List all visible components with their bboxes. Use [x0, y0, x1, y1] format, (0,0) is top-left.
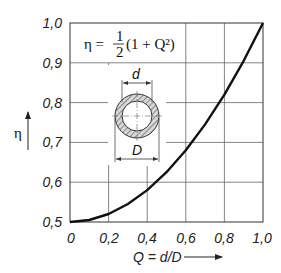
svg-text:0: 0 [67, 230, 75, 246]
y-tick-labels: 0,5 0,6 0,7 0,8 0,9 1,0 [43, 15, 64, 230]
svg-text:2: 2 [116, 44, 124, 60]
svg-text:0,2: 0,2 [99, 230, 119, 246]
hollow-shaft-diagram: d D [108, 65, 166, 165]
svg-text:0,9: 0,9 [43, 55, 63, 71]
y-axis-label: η [14, 125, 22, 141]
svg-text:1,0: 1,0 [43, 15, 63, 31]
svg-text:0,6: 0,6 [176, 230, 196, 246]
formula-annotation: η = 1 2 (1 + Q²) [74, 27, 184, 61]
x-axis-label: Q = d/D [133, 249, 182, 265]
outer-diameter-label: D [132, 142, 142, 158]
svg-text:0,7: 0,7 [43, 134, 64, 150]
efficiency-chart: 0,5 0,6 0,7 0,8 0,9 1,0 0 0,2 0,4 0,6 0,… [0, 0, 281, 273]
svg-text:0,5: 0,5 [43, 214, 63, 230]
svg-text:0,6: 0,6 [43, 174, 63, 190]
svg-text:1: 1 [116, 28, 124, 44]
svg-text:1,0: 1,0 [252, 230, 272, 246]
svg-text:0,4: 0,4 [137, 230, 157, 246]
svg-text:0,8: 0,8 [214, 230, 234, 246]
svg-text:0,8: 0,8 [43, 95, 63, 111]
svg-text:η =: η = [84, 36, 104, 52]
svg-text:(1 + Q²): (1 + Q²) [126, 36, 175, 53]
x-tick-labels: 0 0,2 0,4 0,6 0,8 1,0 [67, 230, 272, 246]
inner-diameter-label: d [132, 66, 141, 82]
